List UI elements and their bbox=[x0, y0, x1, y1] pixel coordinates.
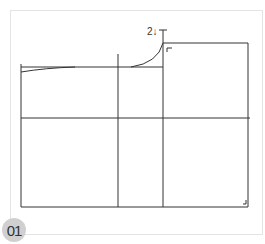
measurement-annotation: 2↓ bbox=[147, 26, 158, 37]
right-angle-mark-bottom bbox=[243, 200, 246, 204]
right-angle-mark bbox=[167, 48, 172, 52]
waist-curve bbox=[21, 67, 75, 72]
step-number-badge: 01 bbox=[2, 218, 26, 242]
crotch-curve bbox=[131, 43, 163, 67]
